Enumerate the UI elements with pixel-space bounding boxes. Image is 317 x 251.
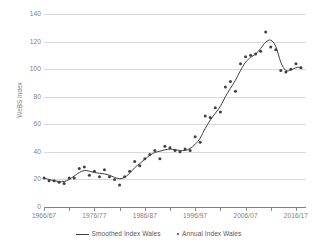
data-point bbox=[174, 149, 177, 152]
y-tick-label: 80 bbox=[1, 93, 41, 100]
data-point bbox=[189, 149, 192, 152]
x-tick bbox=[296, 207, 297, 211]
data-point bbox=[264, 30, 267, 33]
data-point bbox=[214, 106, 217, 109]
legend-label-annual: Annual Index Wales bbox=[182, 230, 241, 238]
x-tick bbox=[195, 207, 196, 211]
data-point bbox=[234, 90, 237, 93]
data-point bbox=[184, 148, 187, 151]
data-point bbox=[108, 175, 111, 178]
data-point bbox=[194, 135, 197, 138]
y-tick-label: 60 bbox=[1, 120, 41, 127]
x-tick-label: 2006/07 bbox=[233, 212, 257, 220]
data-point bbox=[239, 62, 242, 65]
x-axis-line bbox=[44, 207, 306, 208]
x-tick-label: 1996/97 bbox=[183, 212, 207, 220]
data-point bbox=[83, 166, 86, 169]
x-tick-label: 1986/87 bbox=[133, 212, 157, 220]
data-point bbox=[284, 70, 287, 73]
x-tick-label: 2016/17 bbox=[284, 212, 308, 220]
annual-index-markers bbox=[43, 30, 303, 186]
data-point bbox=[289, 68, 292, 71]
data-point bbox=[244, 55, 247, 58]
data-point bbox=[269, 46, 272, 49]
y-tick-label: 0 bbox=[1, 203, 41, 210]
data-point bbox=[274, 48, 277, 51]
x-tick bbox=[170, 207, 171, 211]
dot-swatch-icon bbox=[177, 233, 180, 236]
y-tick-label: 140 bbox=[1, 10, 41, 17]
data-point bbox=[133, 160, 136, 163]
line-swatch-icon bbox=[76, 234, 89, 235]
data-point bbox=[73, 177, 76, 180]
x-tick bbox=[220, 207, 221, 211]
data-point bbox=[163, 145, 166, 148]
data-point bbox=[48, 179, 51, 182]
data-point bbox=[98, 175, 101, 178]
data-point bbox=[43, 177, 46, 180]
legend-item-annual: Annual Index Wales bbox=[177, 230, 242, 238]
data-point bbox=[254, 52, 257, 55]
data-point bbox=[219, 110, 222, 113]
data-point bbox=[229, 80, 232, 83]
x-tick bbox=[120, 207, 121, 211]
x-tick bbox=[145, 207, 146, 211]
legend-label-smoothed: Smoothed Index Wales bbox=[92, 230, 161, 238]
data-point bbox=[158, 157, 161, 160]
legend-item-smoothed: Smoothed Index Wales bbox=[76, 230, 161, 238]
y-tick-label: 100 bbox=[1, 65, 41, 72]
x-tick bbox=[69, 207, 70, 211]
data-point bbox=[123, 175, 126, 178]
y-tick-label: 120 bbox=[1, 38, 41, 45]
data-point bbox=[199, 141, 202, 144]
data-point bbox=[259, 50, 262, 53]
x-tick-label: 1976/77 bbox=[82, 212, 106, 220]
data-point bbox=[88, 174, 91, 177]
x-tick-label: 1966/67 bbox=[32, 212, 56, 220]
x-tick bbox=[271, 207, 272, 211]
data-point bbox=[78, 167, 81, 170]
data-point bbox=[68, 177, 71, 180]
webs-index-chart: WeBS Index 020406080100120140 1966/67197… bbox=[0, 0, 317, 251]
data-point bbox=[128, 170, 131, 173]
x-tick bbox=[246, 207, 247, 211]
data-point bbox=[299, 66, 302, 69]
data-point bbox=[93, 170, 96, 173]
y-tick-label: 20 bbox=[1, 175, 41, 182]
x-tick bbox=[94, 207, 95, 211]
data-point bbox=[294, 62, 297, 65]
data-point bbox=[63, 182, 66, 185]
data-point bbox=[113, 178, 116, 181]
plot-area bbox=[44, 14, 306, 207]
data-point bbox=[58, 181, 61, 184]
series-layer bbox=[44, 14, 306, 207]
smoothed-index-line bbox=[44, 40, 301, 182]
data-point bbox=[143, 157, 146, 160]
data-point bbox=[153, 149, 156, 152]
y-tick-label: 40 bbox=[1, 148, 41, 155]
data-point bbox=[53, 179, 56, 182]
x-tick bbox=[44, 207, 45, 211]
data-point bbox=[204, 115, 207, 118]
data-point bbox=[168, 146, 171, 149]
data-point bbox=[138, 164, 141, 167]
chart-legend: Smoothed Index Wales Annual Index Wales bbox=[0, 230, 317, 238]
data-point bbox=[209, 116, 212, 119]
data-point bbox=[279, 69, 282, 72]
data-point bbox=[103, 168, 106, 171]
data-point bbox=[179, 150, 182, 153]
data-point bbox=[249, 54, 252, 57]
data-point bbox=[118, 183, 121, 186]
data-point bbox=[224, 86, 227, 89]
data-point bbox=[148, 153, 151, 156]
